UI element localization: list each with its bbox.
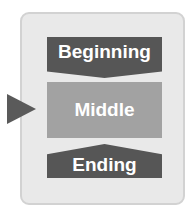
- pointer-arrow-icon: [7, 94, 36, 124]
- stage-middle: Middle: [47, 82, 162, 138]
- stage-beginning: Beginning: [47, 37, 162, 78]
